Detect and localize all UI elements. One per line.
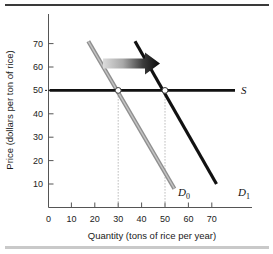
y-tick-label-40: 40 xyxy=(33,109,43,119)
curve-label-d0-subscript: 0 xyxy=(186,192,190,201)
x-tick-label-20: 20 xyxy=(90,214,100,224)
y-axis-ticks xyxy=(49,44,54,184)
axes-group xyxy=(49,14,253,208)
curve-label-d0: D 0 xyxy=(177,186,190,201)
x-axis-ticks xyxy=(71,203,211,208)
curve-label-supply: S xyxy=(241,84,247,96)
x-tick-label-50: 50 xyxy=(160,214,170,224)
y-axis-tick-labels: 10 20 30 40 50 60 70 xyxy=(33,39,43,189)
x-tick-label-70: 70 xyxy=(207,214,217,224)
y-tick-label-10: 10 xyxy=(33,179,43,189)
equilibrium-marker-before xyxy=(115,88,121,94)
y-tick-label-30: 30 xyxy=(33,132,43,142)
y-tick-label-50: 50 xyxy=(33,85,43,95)
x-tick-label-30: 30 xyxy=(113,214,123,224)
curve-label-d1-letter: D xyxy=(237,186,246,198)
y-axis-title: Price (dollars per ton of rice) xyxy=(4,50,15,169)
figure-container: 10 20 30 40 50 60 70 0 10 20 30 40 50 60 xyxy=(0,0,273,254)
y-tick-label-70: 70 xyxy=(33,39,43,49)
curve-label-d1: D 1 xyxy=(237,186,250,201)
y-tick-label-60: 60 xyxy=(33,62,43,72)
x-tick-label-60: 60 xyxy=(183,214,193,224)
x-axis-tick-labels: 0 10 20 30 40 50 60 70 xyxy=(46,214,217,224)
x-axis-title: Quantity (tons of rice per year) xyxy=(88,230,216,241)
curve-label-d0-letter: D xyxy=(177,186,186,198)
y-tick-label-20: 20 xyxy=(33,156,43,166)
x-tick-label-10: 10 xyxy=(66,214,76,224)
equilibrium-marker-after xyxy=(162,88,168,94)
x-tick-label-0: 0 xyxy=(46,214,51,224)
x-tick-label-40: 40 xyxy=(137,214,147,224)
curve-label-d1-subscript: 1 xyxy=(246,192,250,201)
demand-shift-chart: 10 20 30 40 50 60 70 0 10 20 30 40 50 60 xyxy=(0,0,273,254)
